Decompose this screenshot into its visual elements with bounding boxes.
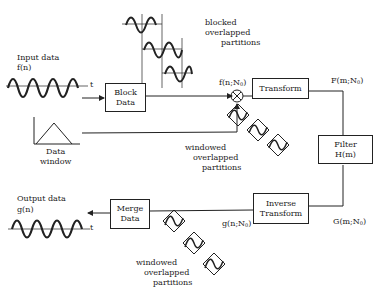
filter-line2: H(m) xyxy=(335,150,356,160)
data-window-label: Data window xyxy=(40,147,71,167)
merge-line1: Merge xyxy=(117,204,144,214)
windowed-top-line1: windowed xyxy=(185,143,241,153)
g-n-label: g(n;N0) xyxy=(222,219,251,230)
merge-data-box: Merge Data xyxy=(110,199,150,229)
windowed-top-line2: overlapped xyxy=(185,153,241,163)
f-n-text: f(n;N xyxy=(219,78,240,87)
block-data-line1: Block xyxy=(114,88,137,98)
G-m-close: ) xyxy=(363,217,366,226)
inverse-line1: Inverse xyxy=(266,199,296,209)
output-signal-label: g(n) xyxy=(17,205,34,215)
windowed-top-label: windowed overlapped partitions xyxy=(185,143,241,173)
windowed-bottom-line2: overlapped xyxy=(136,268,192,278)
data-window-line2: window xyxy=(40,157,71,167)
filter-box: Filter H(m) xyxy=(318,135,373,164)
inverse-line2: Transform xyxy=(260,209,302,219)
input-data-title: Input data xyxy=(17,53,59,63)
F-m-text: F(m;N xyxy=(331,76,357,85)
G-m-label: G(m;N0) xyxy=(333,217,366,228)
g-n-close: ) xyxy=(248,219,251,228)
F-m-close: ) xyxy=(360,76,363,85)
G-m-text: G(m;N xyxy=(333,217,360,226)
blocked-label: blocked overlapped partitions xyxy=(205,18,260,48)
F-m-label: F(m;N0) xyxy=(331,76,363,87)
blocked-line2: overlapped xyxy=(205,28,260,38)
f-n-label: f(n;N0) xyxy=(219,78,246,89)
block-data-box: Block Data xyxy=(105,83,146,112)
merge-line2: Data xyxy=(120,214,139,224)
input-signal-label: f(n) xyxy=(17,63,31,73)
windowed-bottom-label: windowed overlapped partitions xyxy=(136,258,192,288)
f-n-close: ) xyxy=(243,78,246,87)
windowed-bottom-line3: partitions xyxy=(136,278,192,288)
filter-line1: Filter xyxy=(334,140,356,150)
input-wave xyxy=(8,79,78,97)
g-n-text: g(n;N xyxy=(222,219,245,228)
data-window-line1: Data xyxy=(40,147,71,157)
output-axis-label: t xyxy=(90,223,93,233)
blocked-line3: partitions xyxy=(205,38,260,48)
data-window-graph xyxy=(34,117,80,144)
blocked-line1: blocked xyxy=(205,18,260,28)
transform-box: Transform xyxy=(252,78,309,99)
output-data-title: Output data xyxy=(17,194,66,204)
input-axis-label: t xyxy=(90,80,93,90)
windowed-bottom-line1: windowed xyxy=(136,258,192,268)
transform-line1: Transform xyxy=(259,84,301,94)
windowed-top-line3: partitions xyxy=(185,163,241,173)
inverse-transform-box: Inverse Transform xyxy=(253,193,309,224)
block-data-line2: Data xyxy=(116,98,135,108)
